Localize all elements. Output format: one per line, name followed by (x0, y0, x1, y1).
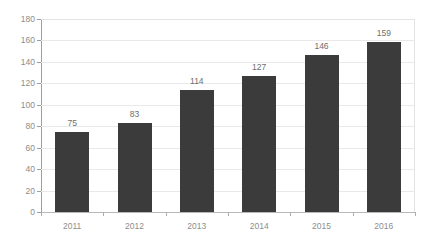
y-axis-tick-label: 60 (26, 143, 35, 152)
gridline-140 (41, 62, 415, 63)
bar-value-label-2012: 83 (130, 110, 139, 119)
y-axis-tick-label: 160 (21, 36, 35, 45)
bar-2016[interactable] (367, 42, 401, 212)
y-axis-tick-label: 20 (26, 186, 35, 195)
y-tick-mark-120 (37, 83, 41, 84)
gridline-180 (41, 19, 415, 20)
y-axis-tick-label: 0 (30, 208, 35, 217)
bar-2015[interactable] (305, 55, 339, 212)
y-axis-tick-label: 40 (26, 165, 35, 174)
y-tick-mark-40 (37, 169, 41, 170)
y-axis-tick-label: 80 (26, 122, 35, 131)
x-axis-category-label-2011: 2011 (63, 222, 81, 231)
y-tick-mark-60 (37, 148, 41, 149)
y-tick-mark-80 (37, 126, 41, 127)
bar-value-label-2014: 127 (252, 63, 266, 72)
x-tick-mark (290, 212, 291, 216)
bar-2011[interactable] (55, 132, 89, 212)
x-tick-mark (415, 212, 416, 216)
gridline-20 (41, 191, 415, 192)
y-tick-mark-20 (37, 191, 41, 192)
gridline-100 (41, 105, 415, 106)
gridline-160 (41, 40, 415, 41)
gridline-60 (41, 148, 415, 149)
bar-2013[interactable] (180, 90, 214, 212)
x-axis-category-label-2012: 2012 (125, 222, 144, 231)
y-axis-tick-label: 120 (21, 79, 35, 88)
y-axis-tick-label: 180 (21, 15, 35, 24)
y-axis-tick-label: 100 (21, 101, 35, 110)
bar-2012[interactable] (118, 123, 152, 212)
x-tick-mark (103, 212, 104, 216)
x-axis-category-label-2015: 2015 (312, 222, 331, 231)
gridline-120 (41, 83, 415, 84)
gridline-40 (41, 169, 415, 170)
y-tick-mark-100 (37, 105, 41, 106)
bar-2014[interactable] (242, 76, 276, 212)
x-tick-mark (228, 212, 229, 216)
plot-area: 1801601401201008060402007583114127146159 (41, 19, 415, 212)
x-tick-mark (166, 212, 167, 216)
bar-value-label-2011: 75 (67, 119, 76, 128)
x-tick-mark (353, 212, 354, 216)
y-tick-mark-160 (37, 40, 41, 41)
gridline-80 (41, 126, 415, 127)
bar-chart-figure: 1801601401201008060402007583114127146159… (0, 0, 434, 252)
x-axis-category-label-2016: 2016 (374, 222, 393, 231)
x-tick-mark (41, 212, 42, 216)
y-tick-mark-140 (37, 62, 41, 63)
bar-value-label-2015: 146 (314, 42, 328, 51)
x-axis-category-label-2014: 2014 (250, 222, 269, 231)
y-axis-tick-label: 140 (21, 58, 35, 67)
y-tick-mark-180 (37, 19, 41, 20)
bar-value-label-2016: 159 (377, 29, 391, 38)
x-axis-category-label-2013: 2013 (187, 222, 206, 231)
bar-value-label-2013: 114 (190, 77, 204, 86)
